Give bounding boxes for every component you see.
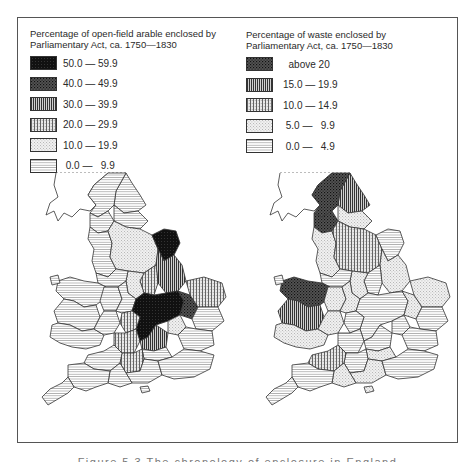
legend-item: 0.0 — 4.9 — [246, 136, 393, 157]
legend-label: above 20 — [279, 59, 330, 70]
isle-of-wight — [140, 386, 150, 393]
legend-title: Percentage of waste enclosed by Parliame… — [246, 29, 393, 51]
legend-title-line2: Parliamentary Act, ca. 1750—1830 — [30, 39, 216, 50]
county-suffolk — [416, 307, 448, 331]
legend-item: 40.0 — 49.9 — [30, 74, 216, 95]
legend-label: 30.0 — 39.9 — [63, 99, 117, 110]
legend-item: 5.0 — 9.9 — [246, 116, 393, 137]
anglesey — [274, 275, 284, 285]
legend-label: 10.0 — 14.9 — [279, 100, 337, 111]
legend-title-line1: Percentage of waste enclosed by — [246, 29, 393, 40]
map-waste — [252, 165, 452, 415]
county-cornwall — [42, 377, 74, 405]
swatch-stipple — [30, 138, 57, 152]
county-yorkshire — [108, 221, 158, 273]
legend-item: 15.0 — 19.9 — [246, 75, 393, 96]
legend-label: 50.0 — 59.9 — [63, 58, 117, 69]
legend-title-line1: Percentage of open-field arable enclosed… — [30, 28, 216, 39]
county-cornwall — [266, 377, 298, 405]
legend-item: 10.0 — 19.9 — [30, 135, 216, 156]
swatch-crosshatch — [246, 57, 273, 71]
legend-item: 30.0 — 39.9 — [30, 94, 216, 115]
map-open-field-arable — [28, 165, 228, 415]
legend-open-field-arable: Percentage of open-field arable enclosed… — [30, 28, 216, 176]
legend-label: 20.0 — 29.9 — [63, 119, 117, 130]
legend-label: 0.0 — 4.9 — [279, 141, 335, 152]
swatch-solid-black — [30, 56, 57, 70]
swatch-stipple — [246, 119, 273, 133]
swatch-horizontal-lines — [246, 139, 273, 153]
county-yorkshire — [332, 221, 382, 273]
legend-label: 10.0 — 19.9 — [63, 140, 117, 151]
legend-title: Percentage of open-field arable enclosed… — [30, 28, 216, 50]
isle-of-wight — [364, 386, 374, 393]
legend-label: 15.0 — 19.9 — [279, 79, 337, 90]
swatch-dense-vertical — [246, 78, 273, 92]
legend-item: 10.0 — 14.9 — [246, 95, 393, 116]
county-suffolk — [192, 307, 224, 331]
swatch-crosshatch — [30, 77, 57, 91]
swatch-dense-vertical — [30, 97, 57, 111]
legend-item: 50.0 — 59.9 — [30, 53, 216, 74]
legend-label: 40.0 — 49.9 — [63, 78, 117, 89]
swatch-vertical-dotted — [246, 98, 273, 112]
swatch-vertical-dotted — [30, 118, 57, 132]
county-essex — [178, 327, 214, 351]
anglesey — [50, 275, 60, 285]
legend-label: 5.0 — 9.9 — [279, 120, 335, 131]
legend-title-line2: Parliamentary Act, ca. 1750—1830 — [246, 40, 393, 51]
figure-caption: Figure 5.3 The chronology of enclosure i… — [0, 452, 475, 462]
legend-waste: Percentage of waste enclosed by Parliame… — [246, 29, 393, 157]
legend-item: 20.0 — 29.9 — [30, 115, 216, 136]
county-essex — [402, 327, 438, 351]
legend-item: above 20 — [246, 54, 393, 75]
